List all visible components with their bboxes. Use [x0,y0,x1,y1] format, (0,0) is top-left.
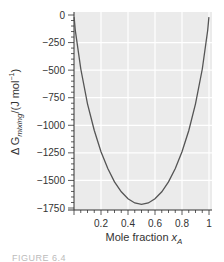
figure-caption: FIGURE 6.4 [12,253,66,262]
x-tick-label: 0.4 [121,218,135,229]
y-tick-label: 0 [59,10,65,21]
y-tick-label: −1750 [37,203,66,214]
x-tick-label: 0.6 [148,218,162,229]
y-tick-label: −1000 [37,120,66,131]
y-tick-label: −750 [42,92,65,103]
x-tick-label: 0.8 [175,218,189,229]
y-axis-label: Δ Gmixing/(J mol−1) [8,37,24,187]
y-tick-label: −500 [42,65,65,76]
y-tick-label: −1500 [37,175,66,186]
y-tick-label: −1250 [37,147,66,158]
y-tick-label: −250 [42,37,65,48]
x-tick-label: 1 [206,218,212,229]
chart-plot: 0−250−500−750−1000−1250−1500−17500.20.40… [0,0,224,262]
x-tick-label: 0.2 [94,218,108,229]
x-axis-label: Mole fraction xA [84,231,204,246]
chart-figure: 0−250−500−750−1000−1250−1500−17500.20.40… [0,0,224,262]
